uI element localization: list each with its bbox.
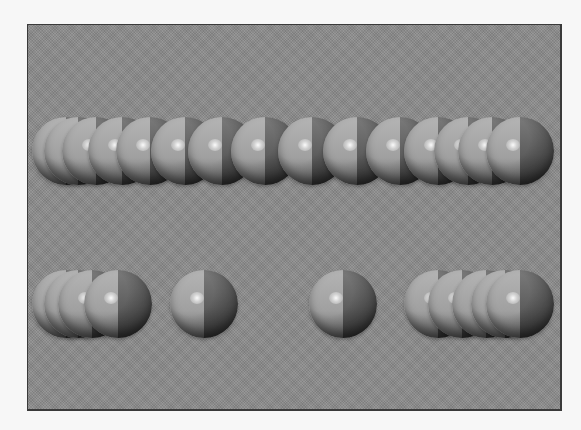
specular-highlight — [386, 139, 400, 151]
specular-highlight — [251, 139, 265, 151]
left-cluster-sphere — [84, 270, 152, 338]
specular-highlight — [343, 139, 357, 151]
specular-highlight — [190, 292, 204, 304]
isolated-sphere-2-sphere — [309, 270, 377, 338]
specular-highlight — [208, 139, 222, 151]
specular-highlight — [136, 139, 150, 151]
sphere-rim-shadow — [170, 270, 238, 338]
specular-highlight — [329, 292, 343, 304]
render-frame — [27, 24, 562, 411]
sphere-rim-shadow — [309, 270, 377, 338]
backdrop-texture — [28, 25, 560, 409]
specular-highlight — [506, 139, 520, 151]
isolated-sphere-1-sphere — [170, 270, 238, 338]
sphere-rim-shadow — [84, 270, 152, 338]
specular-highlight — [298, 139, 312, 151]
top-row-sphere — [486, 117, 554, 185]
specular-highlight — [104, 292, 118, 304]
sphere-rim-shadow — [486, 117, 554, 185]
specular-highlight — [506, 292, 520, 304]
specular-highlight — [171, 139, 185, 151]
sphere-rim-shadow — [486, 270, 554, 338]
right-cluster-sphere — [486, 270, 554, 338]
